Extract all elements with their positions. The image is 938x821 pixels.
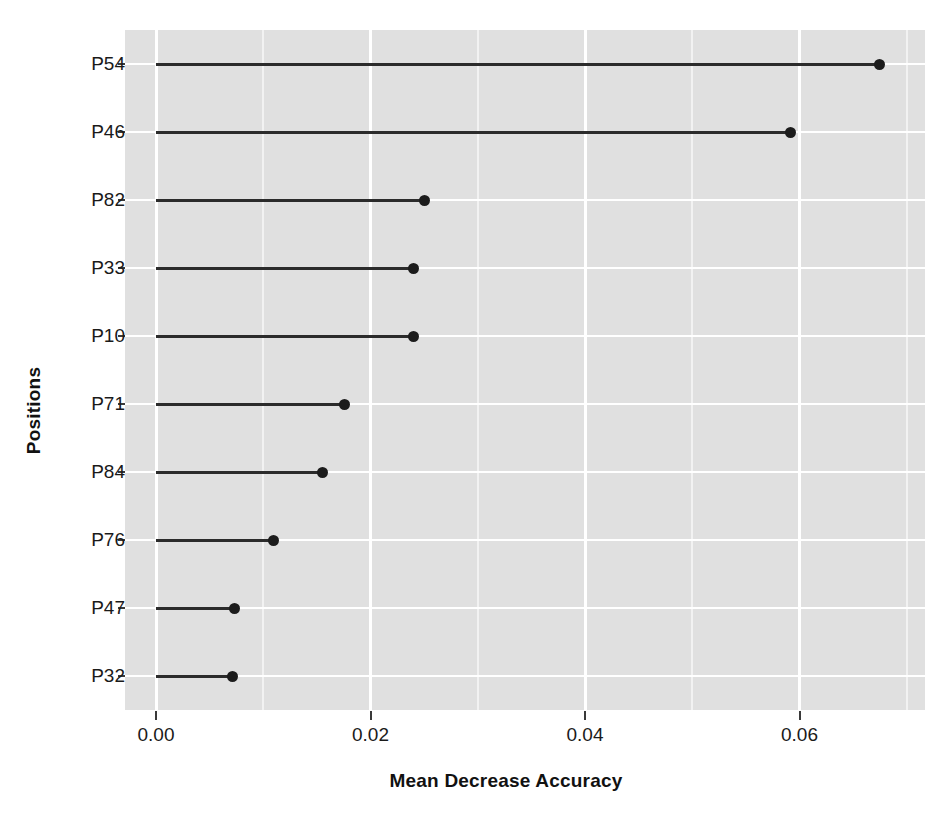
y-tick-label-P82: P82 — [15, 189, 125, 211]
data-point-P84 — [317, 467, 328, 478]
x-tick-mark — [370, 711, 372, 720]
y-tick-label-P47: P47 — [15, 597, 125, 619]
y-tick-label-P33: P33 — [15, 257, 125, 279]
data-point-P54 — [874, 59, 885, 70]
data-point-P33 — [408, 263, 419, 274]
y-tick-label-P71: P71 — [15, 393, 125, 415]
y-tick-label-P32: P32 — [15, 665, 125, 687]
x-tick-label-0.06: 0.06 — [750, 724, 850, 746]
y-tick-label-P54: P54 — [15, 53, 125, 75]
x-tick-label-0.00: 0.00 — [106, 724, 206, 746]
x-tick-mark — [799, 711, 801, 720]
y-tick-label-P10: P10 — [15, 325, 125, 347]
chart-figure: Positions P54P46P82P33P10P71P84P76P47P32… — [0, 0, 938, 821]
lollipop-stem — [156, 199, 424, 202]
lollipop-stem — [156, 63, 880, 66]
data-point-P82 — [419, 195, 430, 206]
lollipop-stem — [156, 131, 791, 134]
x-tick-mark — [584, 711, 586, 720]
x-tick-mark — [155, 711, 157, 720]
x-axis-title: Mean Decrease Accuracy — [156, 770, 856, 792]
x-tick-label-0.02: 0.02 — [321, 724, 421, 746]
data-point-P46 — [785, 127, 796, 138]
lollipop-stem — [156, 403, 345, 406]
y-axis-ticks: P54P46P82P33P10P71P84P76P47P32 — [0, 0, 125, 821]
lollipop-stem — [156, 607, 234, 610]
data-point-P47 — [229, 603, 240, 614]
y-tick-label-P84: P84 — [15, 461, 125, 483]
x-tick-label-0.04: 0.04 — [535, 724, 635, 746]
lollipop-stem — [156, 471, 322, 474]
data-point-P71 — [339, 399, 350, 410]
lollipop-stem — [156, 539, 274, 542]
data-point-P76 — [268, 535, 279, 546]
gridline-horizontal — [125, 675, 925, 677]
data-point-P32 — [227, 671, 238, 682]
lollipop-stem — [156, 267, 413, 270]
y-tick-label-P76: P76 — [15, 529, 125, 551]
lollipop-stem — [156, 675, 232, 678]
y-tick-label-P46: P46 — [15, 121, 125, 143]
lollipop-stem — [156, 335, 413, 338]
data-point-P10 — [408, 331, 419, 342]
gridline-horizontal — [125, 607, 925, 609]
plot-panel — [125, 30, 925, 710]
